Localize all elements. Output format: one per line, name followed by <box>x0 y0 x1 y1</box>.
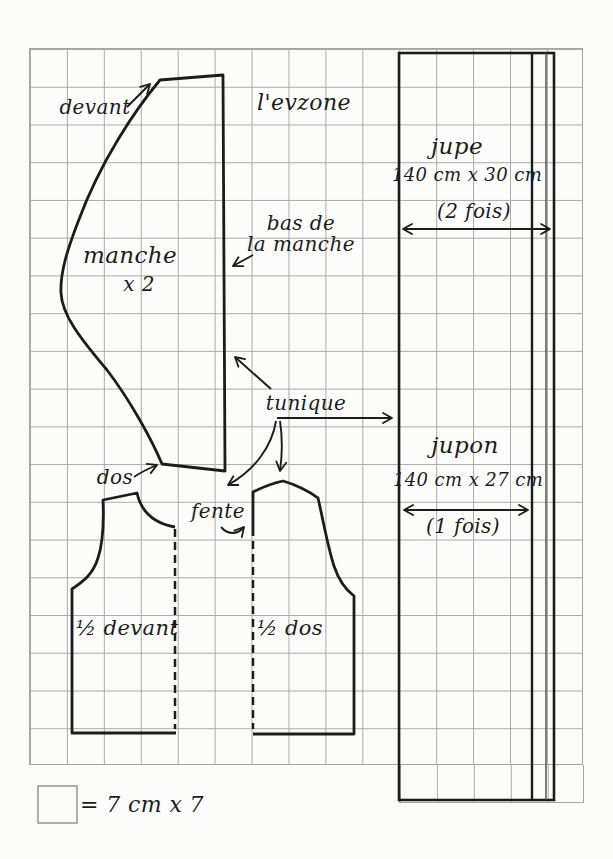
tunic-slit-label: fente <box>191 501 245 522</box>
half-front-outline <box>72 493 176 733</box>
fente-arrow <box>221 527 244 533</box>
sleeve-label: manche <box>83 243 177 267</box>
sleeve-hem-label-line2: la manche <box>247 234 355 255</box>
pattern-drawing <box>0 0 613 859</box>
sleeve-hem-label: bas de la manche <box>247 213 355 255</box>
underskirt-size-label: 140 cm x 27 cm <box>393 471 543 490</box>
half-back-outline <box>253 481 354 734</box>
skirt-size-label: 140 cm x 30 cm <box>392 166 542 185</box>
sleeve-quantity-label: x 2 <box>123 274 155 295</box>
half-back-label: ½ dos <box>257 617 323 639</box>
sleeve-hem-label-line1: bas de <box>247 213 355 234</box>
legend-scale-label: = 7 cm x 7 <box>80 793 204 816</box>
pattern-sheet: l'evzone devant manche x 2 bas de la man… <box>0 0 613 859</box>
skirt-count-label: (2 fois) <box>437 201 511 222</box>
underskirt-count-label: (1 fois) <box>426 516 500 537</box>
tunic-label: tunique <box>266 393 347 414</box>
bas-de-la-manche-arrow <box>233 255 253 266</box>
sleeve-front-edge-label: devant <box>59 97 130 118</box>
tunique-curved-arrow <box>228 421 276 485</box>
legend-square <box>38 786 77 823</box>
skirt-label: jupe <box>431 134 483 158</box>
dos-arrow <box>134 465 157 477</box>
underskirt-label: jupon <box>431 433 498 457</box>
tunique-upper-arrow <box>235 357 271 389</box>
half-front-label: ½ devant <box>76 617 178 639</box>
page-title: l'evzone <box>257 91 351 114</box>
tunique-down-arrow <box>280 421 282 471</box>
sleeve-back-edge-label: dos <box>97 467 133 488</box>
